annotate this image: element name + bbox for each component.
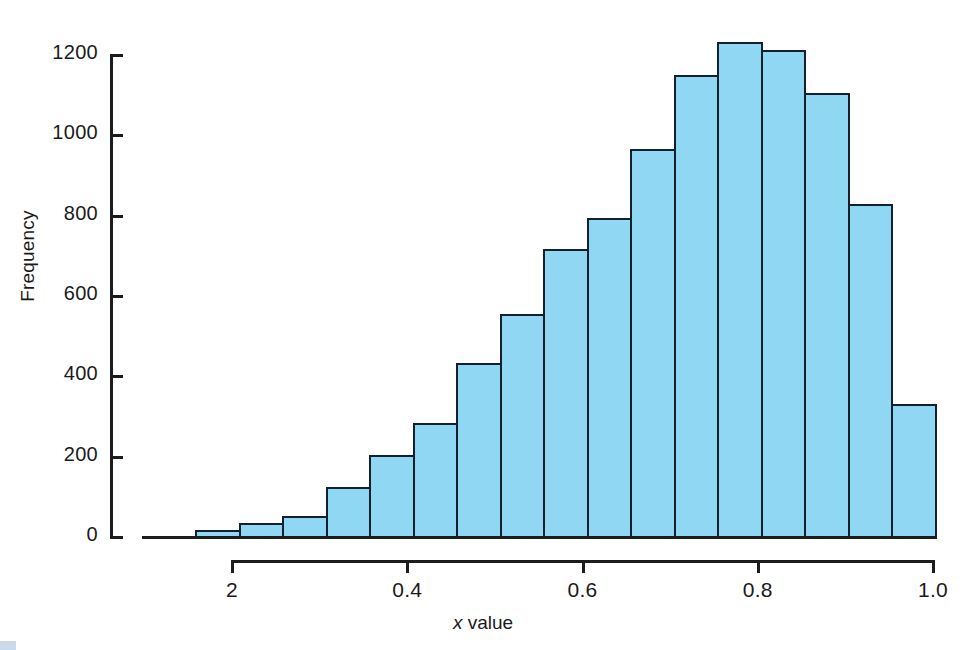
x-tick-1 <box>932 560 935 573</box>
histogram-bar <box>326 487 372 538</box>
histogram-bar <box>848 204 894 538</box>
x-tick-0.8 <box>757 560 760 573</box>
histogram-figure: Frequency 020040060080010001200 20.40.60… <box>0 0 966 650</box>
x-tick-0.4 <box>406 560 409 573</box>
histogram-bar <box>891 404 937 538</box>
x-tick-label-0.4: 0.4 <box>347 578 467 602</box>
histogram-bar <box>674 75 720 538</box>
x-axis-label: x value <box>0 612 966 634</box>
plot-area <box>0 0 966 650</box>
x-tick-0.2 <box>231 560 234 573</box>
x-tick-label-1: 1.0 <box>873 578 966 602</box>
histogram-bar <box>282 516 328 538</box>
histogram-bar <box>500 314 546 538</box>
x-axis-label-suffix: value <box>462 612 513 633</box>
x-tick-label-0.8: 0.8 <box>698 578 818 602</box>
histogram-bar <box>543 249 589 538</box>
histogram-bar <box>630 149 676 538</box>
x-tick-label-0.6: 0.6 <box>523 578 643 602</box>
x-tick-0.6 <box>582 560 585 573</box>
histogram-bar <box>413 423 459 538</box>
histogram-bar <box>804 93 850 538</box>
histogram-bar <box>456 363 502 538</box>
baseline <box>142 536 937 539</box>
page-scan-artifact <box>0 641 16 650</box>
histogram-bar <box>717 42 763 538</box>
histogram-bar <box>761 50 807 538</box>
x-tick-label-0.2: 2 <box>172 578 292 602</box>
histogram-bar <box>369 455 415 538</box>
x-axis-label-variable: x <box>453 612 463 633</box>
histogram-bar <box>587 218 633 538</box>
